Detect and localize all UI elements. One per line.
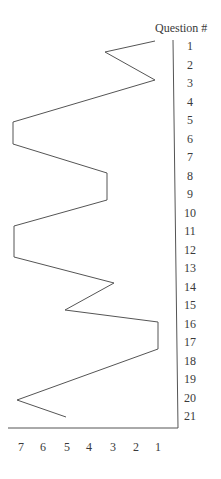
y-tick-label: 1 <box>187 39 193 53</box>
y-tick-label: 12 <box>184 243 196 257</box>
y-tick-label: 17 <box>184 335 196 349</box>
y-tick-label: 16 <box>184 317 196 331</box>
y-tick-label: 20 <box>184 391 196 405</box>
x-tick-label: 2 <box>133 440 139 454</box>
x-tick-label: 6 <box>40 440 46 454</box>
question-line-chart: Question # 12345678910111213141516171819… <box>0 0 221 479</box>
y-tick-labels: 123456789101112131415161718192021 <box>184 39 196 423</box>
data-line <box>13 41 158 417</box>
x-tick-label: 4 <box>86 440 92 454</box>
y-tick-label: 13 <box>184 261 196 275</box>
y-axis-line <box>173 40 178 428</box>
y-tick-label: 3 <box>187 76 193 90</box>
y-axis-label: Question # <box>155 21 207 35</box>
y-tick-label: 18 <box>184 354 196 368</box>
x-tick-label: 7 <box>18 440 24 454</box>
y-tick-label: 6 <box>187 132 193 146</box>
y-tick-label: 15 <box>184 298 196 312</box>
y-tick-label: 7 <box>187 150 193 164</box>
y-tick-label: 4 <box>187 95 193 109</box>
y-tick-label: 8 <box>187 169 193 183</box>
y-tick-label: 14 <box>184 280 196 294</box>
x-tick-label: 3 <box>110 440 116 454</box>
x-tick-label: 5 <box>64 440 70 454</box>
y-tick-label: 9 <box>187 187 193 201</box>
y-tick-label: 19 <box>184 372 196 386</box>
y-tick-label: 21 <box>184 409 196 423</box>
y-tick-label: 10 <box>184 206 196 220</box>
x-tick-labels: 7654321 <box>18 440 161 454</box>
x-tick-label: 1 <box>155 440 161 454</box>
y-tick-label: 2 <box>187 58 193 72</box>
y-tick-label: 5 <box>187 113 193 127</box>
y-tick-label: 11 <box>184 224 196 238</box>
